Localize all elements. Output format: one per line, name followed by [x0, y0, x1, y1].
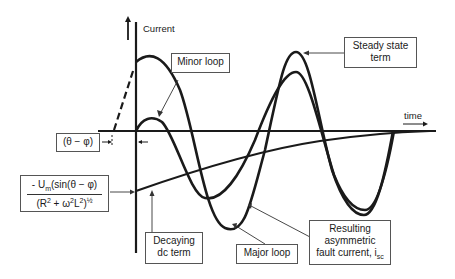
steady-state-label: Steady state term: [344, 37, 417, 68]
dc-offset-formula: - Um(sin(θ − φ) (R2 + ω2L2)½: [20, 175, 109, 212]
time-axis-label: time: [404, 110, 422, 121]
minor-loop-curve: [136, 72, 394, 210]
formula-denominator: (R2 + ω2L2)½: [23, 195, 106, 210]
arrowhead-icon: [157, 110, 163, 117]
phase-angle-label: (θ − φ): [56, 133, 100, 152]
arrowhead-icon: [138, 140, 142, 144]
formula-numerator: - Um(sin(θ − φ): [27, 179, 102, 195]
arrowhead-icon: [108, 140, 112, 144]
arrowhead-icon: [150, 190, 155, 196]
minor-loop-leader: [160, 80, 178, 114]
major-loop-label: Major loop: [236, 244, 298, 264]
arrowhead-icon: [423, 122, 428, 127]
arrowhead-icon: [303, 51, 309, 56]
arrowhead-icon: [130, 190, 135, 195]
resulting-leader: [251, 206, 310, 237]
resulting-fault-current-label: Resulting asymmetric fault current, isc: [309, 220, 391, 265]
major-loop-curve: [136, 52, 393, 229]
minor-loop-label: Minor loop: [171, 53, 230, 73]
decaying-dc-label: Decaying dc term: [145, 232, 203, 264]
major-loop-leader: [236, 226, 265, 244]
dashed-prefault-curve: [114, 68, 134, 130]
current-axis-label: Current: [143, 23, 175, 34]
arrowhead-icon: [125, 16, 131, 22]
